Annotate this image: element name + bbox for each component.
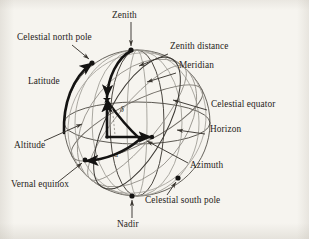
- label-altitude: Altitude: [14, 140, 45, 150]
- celestial-north-pole-leader: [72, 45, 89, 59]
- label-declination-symbol: δ: [120, 105, 124, 114]
- label-zenith-distance: Zenith distance: [170, 41, 229, 51]
- label-celestial-south-pole: Celestial south pole: [145, 195, 220, 205]
- meridian-leader: [147, 73, 176, 82]
- label-horizon: Horizon: [210, 124, 241, 134]
- polar-great-circles-group: [40, 25, 235, 222]
- label-right-ascension-symbol: α: [114, 150, 118, 159]
- label-meridian: Meridian: [179, 60, 214, 70]
- celestial-south-pole-point: [175, 175, 180, 180]
- label-latitude: Latitude: [28, 76, 60, 86]
- vernal-equinox-point: [83, 158, 88, 163]
- observer-point: [105, 135, 109, 139]
- azimuth-leader: [147, 141, 188, 163]
- label-celestial-north-pole: Celestial north pole: [17, 32, 92, 42]
- label-vernal-equinox: Vernal equinox: [11, 179, 69, 189]
- label-azimuth: Azimuth: [190, 160, 223, 170]
- zenith-point: [128, 47, 133, 52]
- celestial-north-pole-point: [89, 60, 94, 65]
- label-celestial-equator: Celestial equator: [211, 99, 275, 109]
- label-zenith: Zenith: [112, 10, 137, 20]
- azimuth-endpoint: [150, 135, 154, 139]
- label-nadir: Nadir: [117, 219, 139, 229]
- nadir-point: [129, 193, 134, 198]
